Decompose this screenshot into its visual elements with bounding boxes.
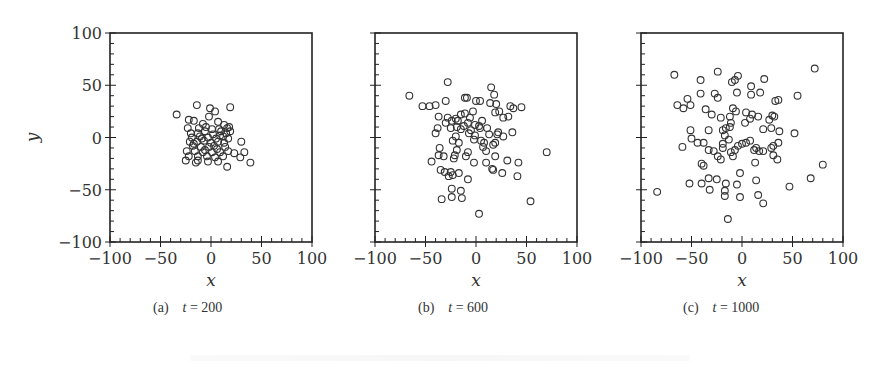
plot-frame (636, 33, 843, 247)
data-point (717, 114, 724, 121)
data-point (743, 139, 750, 146)
data-point (687, 127, 694, 134)
data-point (786, 183, 793, 190)
data-point (705, 127, 712, 134)
x-axis-label: x (737, 270, 747, 290)
caption-tag: (a) (153, 300, 169, 315)
data-point (748, 83, 755, 90)
data-point (714, 68, 721, 75)
x-tick-label: 50 (782, 249, 802, 268)
data-point (776, 128, 783, 135)
x-tick-label: 100 (828, 249, 859, 268)
data-point (748, 91, 755, 98)
data-points (654, 65, 826, 222)
data-point (726, 113, 733, 120)
data-point (730, 153, 737, 160)
faded-figure-caption (190, 355, 690, 361)
data-point (680, 105, 687, 112)
data-point (671, 71, 678, 78)
subfigure-caption-a: (a)t = 200 (153, 300, 222, 316)
data-point (791, 130, 798, 137)
data-point (724, 216, 731, 223)
data-point (760, 148, 767, 155)
data-point (770, 152, 777, 159)
data-point (726, 124, 733, 131)
data-point (727, 149, 734, 156)
data-point (721, 193, 728, 200)
data-point (679, 144, 686, 151)
data-point (706, 186, 713, 193)
x-tick-label: −100 (619, 249, 663, 268)
data-point (742, 119, 749, 126)
data-point (760, 200, 767, 207)
data-point (708, 111, 715, 118)
x-tick-label: 0 (737, 249, 747, 268)
data-point (737, 194, 744, 201)
data-point (761, 76, 768, 83)
caption-value: = 1000 (716, 300, 759, 315)
data-point (654, 188, 661, 195)
data-point (760, 126, 767, 133)
caption-tag: (b) (418, 300, 434, 315)
caption-value: = 200 (186, 300, 222, 315)
data-point (775, 139, 782, 146)
subfigure-caption-c: (c)t = 1000 (683, 300, 759, 316)
data-point (757, 89, 764, 96)
data-point (819, 161, 826, 168)
data-point (771, 113, 778, 120)
data-point (755, 192, 762, 199)
data-point (697, 90, 704, 97)
caption-value: = 600 (452, 300, 488, 315)
data-point (807, 175, 814, 182)
data-point (734, 89, 741, 96)
data-point (752, 159, 759, 166)
data-point (753, 177, 760, 184)
data-point (811, 65, 818, 72)
data-point (698, 180, 705, 187)
x-tick-label: −50 (675, 249, 709, 268)
scatter-plot-c: −100−50050100x (0, 0, 879, 300)
data-point (719, 145, 726, 152)
data-point (774, 156, 781, 163)
data-point (794, 92, 801, 99)
x-axis-tick-labels: −100−50050100 (619, 249, 858, 268)
data-point (684, 95, 691, 102)
caption-tag: (c) (683, 300, 699, 315)
data-point (734, 181, 741, 188)
data-point (713, 176, 720, 183)
data-point (768, 125, 775, 132)
data-point (686, 180, 693, 187)
subfigure-caption-b: (b)t = 600 (418, 300, 488, 316)
data-point (722, 180, 729, 187)
data-point (737, 170, 744, 177)
data-point (702, 106, 709, 113)
data-point (705, 175, 712, 182)
data-point (755, 113, 762, 120)
data-point (688, 135, 695, 142)
data-point (747, 137, 754, 144)
data-point (725, 136, 732, 143)
data-point (697, 77, 704, 84)
